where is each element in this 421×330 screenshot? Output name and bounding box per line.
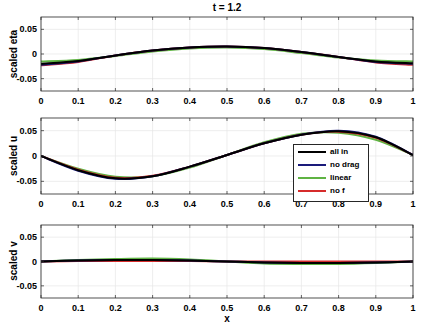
y-tick-label: 0.05 xyxy=(19,24,37,34)
legend-label: linear xyxy=(330,172,351,184)
x-tick-label: 0 xyxy=(38,303,43,313)
figure: 00.10.20.30.40.50.60.70.80.910.050-0.050… xyxy=(0,0,421,330)
x-tick-label: 0.3 xyxy=(146,199,159,209)
legend-item-no-f: no f xyxy=(298,185,345,197)
x-tick-label: 0.1 xyxy=(72,303,85,313)
x-tick-label: 0.6 xyxy=(258,303,271,313)
x-tick-label: 0.2 xyxy=(109,303,122,313)
x-tick-label: 0.5 xyxy=(221,199,234,209)
y-tick-label: 0 xyxy=(32,151,37,161)
x-tick-label: 0.9 xyxy=(370,96,383,106)
y-tick-label: 0 xyxy=(32,257,37,267)
x-tick-label: 0.6 xyxy=(258,199,271,209)
y-axis-label-u: scaled u xyxy=(8,116,20,196)
y-tick-label: 0.05 xyxy=(19,126,37,136)
x-tick-label: 0.2 xyxy=(109,96,122,106)
legend-label: all in xyxy=(330,146,348,158)
x-tick-label: 0.5 xyxy=(221,96,234,106)
x-tick-label: 0.4 xyxy=(184,199,197,209)
y-tick-label: 0 xyxy=(32,49,37,59)
x-tick-label: 0.6 xyxy=(258,96,271,106)
x-tick-label: 0.3 xyxy=(146,96,159,106)
x-tick-label: 0.7 xyxy=(295,96,308,106)
x-tick-label: 0.1 xyxy=(72,199,85,209)
x-tick-label: 0.3 xyxy=(146,303,159,313)
x-tick-label: 0 xyxy=(38,96,43,106)
legend-swatch-no-f xyxy=(298,190,326,192)
axes-v: 00.10.20.30.40.50.60.70.80.910.050-0.05 xyxy=(16,225,415,313)
legend-item-linear: linear xyxy=(298,172,351,184)
x-tick-label: 1 xyxy=(410,96,415,106)
figure-title: t = 1.2 xyxy=(41,2,413,13)
legend-item-no-drag: no drag xyxy=(298,159,359,171)
y-tick-label: 0.05 xyxy=(19,232,37,242)
y-axis-label-eta: scaled eta xyxy=(8,14,20,94)
x-tick-label: 0.8 xyxy=(332,303,345,313)
x-tick-label: 0.1 xyxy=(72,96,85,106)
legend-swatch-linear xyxy=(298,177,326,179)
legend: all in no drag linear no f xyxy=(293,144,369,202)
legend-label: no drag xyxy=(330,159,359,171)
legend-swatch-no-drag xyxy=(298,164,326,166)
legend-swatch-all-in xyxy=(298,151,326,153)
x-tick-label: 0.4 xyxy=(184,303,197,313)
x-tick-label: 0.7 xyxy=(295,303,308,313)
x-tick-label: 1 xyxy=(410,199,415,209)
axes-eta: 00.10.20.30.40.50.60.70.80.910.050-0.05 xyxy=(16,17,415,106)
legend-label: no f xyxy=(330,185,345,197)
x-tick-label: 0.4 xyxy=(184,96,197,106)
legend-item-all-in: all in xyxy=(298,146,348,158)
y-axis-label-v: scaled v xyxy=(8,221,20,301)
x-tick-label: 0.9 xyxy=(370,303,383,313)
x-tick-label: 0 xyxy=(38,199,43,209)
x-tick-label: 0.9 xyxy=(370,199,383,209)
x-tick-label: 0.5 xyxy=(221,303,234,313)
x-tick-label: 0.8 xyxy=(332,96,345,106)
x-tick-label: 1 xyxy=(410,303,415,313)
x-axis-label: x xyxy=(41,313,413,324)
x-tick-label: 0.2 xyxy=(109,199,122,209)
